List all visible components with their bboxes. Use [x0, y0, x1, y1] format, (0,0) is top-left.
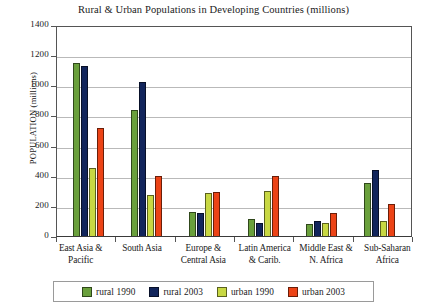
x-tick-mark: [175, 237, 176, 242]
x-tick-mark: [293, 237, 294, 242]
chart-legend: rural 1990rural 2003urban 1990urban 2003: [53, 281, 374, 302]
bar-group: [351, 27, 409, 236]
x-axis-label: South Asia: [111, 243, 172, 275]
y-axis-ticks: 1400120010008006004002000: [0, 26, 56, 237]
bar-group: [234, 27, 292, 236]
bar-chart: Rural & Urban Populations in Developing …: [0, 0, 427, 307]
bar: [213, 192, 220, 236]
legend-item: urban 1990: [217, 287, 274, 297]
bar: [205, 193, 212, 236]
bar: [73, 63, 80, 236]
y-tick-label: 600: [35, 140, 49, 150]
bar-group: [59, 27, 117, 236]
x-axis-label-line: N. Africa: [295, 255, 356, 267]
x-axis-label: Europe &Central Asia: [173, 243, 234, 275]
x-axis-ticks: [56, 237, 412, 242]
x-axis-label: Latin America& Carib.: [234, 243, 295, 275]
x-axis-label: East Asia &Pacific: [50, 243, 111, 275]
x-axis-label-line: Africa: [357, 255, 418, 267]
x-tick-mark: [353, 237, 354, 242]
y-tick-label: 1400: [30, 19, 49, 29]
x-tick-mark: [56, 237, 57, 242]
bar: [139, 82, 146, 236]
bar: [322, 223, 329, 236]
bar: [256, 223, 263, 236]
x-axis-label: Middle East &N. Africa: [295, 243, 356, 275]
x-axis-label-line: Middle East &: [295, 243, 356, 255]
bar: [97, 128, 104, 237]
bar-group: [292, 27, 350, 236]
legend-item: urban 2003: [288, 287, 345, 297]
bar: [306, 224, 313, 236]
legend-swatch-icon: [288, 287, 298, 297]
bar: [364, 183, 371, 237]
x-axis-label-line: East Asia &: [50, 243, 111, 255]
x-axis-label: Sub-SaharanAfrica: [357, 243, 418, 275]
plot-wrap: [56, 26, 412, 237]
x-axis-label-line: Pacific: [50, 255, 111, 267]
bar: [330, 213, 337, 236]
x-tick-mark: [115, 237, 116, 242]
bar: [264, 191, 271, 236]
bar: [272, 176, 279, 236]
bar: [89, 168, 96, 236]
x-tick-mark: [234, 237, 235, 242]
bar: [81, 66, 88, 236]
legend-swatch-icon: [149, 287, 159, 297]
legend-swatch-icon: [82, 287, 92, 297]
bar: [147, 195, 154, 236]
y-tick-label: 800: [35, 109, 49, 119]
bar: [388, 204, 395, 236]
x-axis-label-line: Central Asia: [173, 255, 234, 267]
x-axis-label-line: [111, 255, 172, 267]
bar: [248, 219, 255, 236]
legend-swatch-icon: [217, 287, 227, 297]
legend-item: rural 2003: [149, 287, 202, 297]
bar-group: [176, 27, 234, 236]
legend-label: urban 1990: [231, 287, 274, 297]
legend-label: rural 2003: [163, 287, 202, 297]
y-tick-label: 1200: [30, 49, 49, 59]
x-axis-label-line: South Asia: [111, 243, 172, 255]
legend-label: urban 2003: [302, 287, 345, 297]
plot-area: [56, 26, 412, 237]
x-axis-label-line: & Carib.: [234, 255, 295, 267]
bar: [197, 213, 204, 236]
bar: [155, 176, 162, 236]
x-axis-label-line: Europe &: [173, 243, 234, 255]
y-tick-label: 200: [35, 200, 49, 210]
y-tick-label: 400: [35, 170, 49, 180]
bar: [131, 110, 138, 236]
x-axis-label-line: Sub-Saharan: [357, 243, 418, 255]
bar: [380, 221, 387, 236]
y-tick-label: 0: [44, 230, 49, 240]
bar: [189, 212, 196, 236]
x-axis-labels: East Asia &PacificSouth Asia Europe &Cen…: [50, 243, 418, 275]
chart-title: Rural & Urban Populations in Developing …: [0, 4, 427, 15]
bar-group: [117, 27, 175, 236]
legend-label: rural 1990: [96, 287, 135, 297]
bar-groups: [57, 27, 411, 236]
bar: [372, 170, 379, 236]
x-tick-mark: [412, 237, 413, 242]
legend-item: rural 1990: [82, 287, 135, 297]
bar: [314, 221, 321, 236]
x-axis-label-line: Latin America: [234, 243, 295, 255]
y-tick-label: 1000: [30, 79, 49, 89]
